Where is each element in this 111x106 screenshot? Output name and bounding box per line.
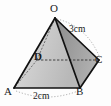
vertex-label-O: O <box>50 3 58 14</box>
measurement-label-oc: 3cm <box>69 25 85 35</box>
pyramid-figure: O A B C D 3cm 2cm <box>0 0 111 106</box>
vertex-label-B: B <box>76 86 83 97</box>
vertex-label-D: D <box>34 51 42 62</box>
vertex-label-C: C <box>95 54 102 65</box>
measurement-label-ab: 2cm <box>33 92 49 102</box>
vertex-label-A: A <box>4 86 12 97</box>
